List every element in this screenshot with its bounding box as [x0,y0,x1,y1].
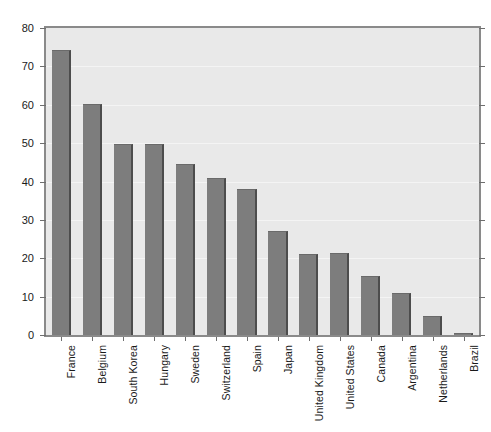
x-axis-tick-mark [371,337,372,341]
bar [52,50,71,335]
x-axis-tick-mark [61,337,62,341]
x-axis-tick-mark [309,337,310,341]
bar [207,178,226,335]
bar [237,189,256,335]
x-axis-tick-mark [464,337,465,341]
x-axis-tick-mark [216,337,217,341]
y-axis-tick-label: 40 [8,177,34,187]
x-axis-tick-mark [433,337,434,341]
x-axis-tick-mark [278,337,279,341]
y-axis-tick-label: 20 [8,253,34,263]
x-axis-tick-mark [402,337,403,341]
x-axis-label: Spain [251,345,263,372]
x-axis-label: Hungary [158,345,170,385]
bar [361,276,380,335]
bar [330,253,349,335]
bar [423,316,442,335]
bars-layer [46,28,479,335]
bar [145,144,164,335]
x-axis-labels: FranceBelgiumSouth KoreaHungarySwedenSwi… [46,341,479,431]
y-axis-tick-label: 70 [8,61,34,71]
bar [392,293,411,335]
y-axis-tick-label: 0 [8,330,34,340]
x-axis-label: Switzerland [220,345,232,400]
x-axis-tick-mark [247,337,248,341]
x-axis-tick-mark [185,337,186,341]
y-axis-tick-label: 60 [8,100,34,110]
bar [83,104,102,335]
x-axis-label: United States [344,345,356,409]
x-axis-label: Japan [282,345,294,374]
x-axis-tick-mark [154,337,155,341]
x-axis-label: Brazil [468,345,480,372]
y-axis-tick-label: 50 [8,138,34,148]
bar [299,254,318,335]
bar [176,164,195,335]
x-axis-label: France [65,345,77,378]
bar [454,333,473,335]
x-axis-label: Netherlands [437,345,449,403]
bar-chart-figure: 01020304050607080 FranceBelgiumSouth Kor… [0,0,491,432]
x-axis-tick-mark [92,337,93,341]
bar [268,231,287,335]
x-axis-label: United Kingdom [313,345,325,421]
x-axis-label: Sweden [189,345,201,384]
x-axis-tick-mark [123,337,124,341]
x-axis-label: Belgium [96,345,108,384]
y-axis-tick-label: 10 [8,292,34,302]
x-axis-label: Argentina [406,345,418,391]
bar [114,144,133,335]
y-axis-tick-label: 30 [8,215,34,225]
y-axis-tick-label: 80 [8,23,34,33]
x-axis-tick-mark [340,337,341,341]
x-axis-label: Canada [375,345,387,382]
x-axis-label: South Korea [127,345,139,404]
